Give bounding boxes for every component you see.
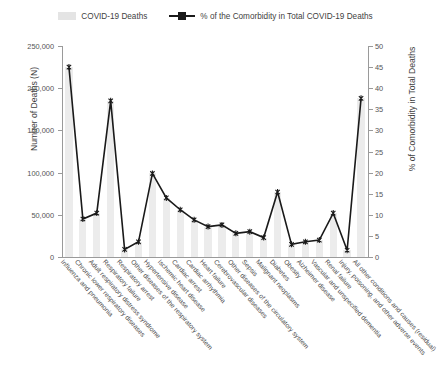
right-tick-label: 20 xyxy=(375,169,415,178)
legend-label-bar: COVID-19 Deaths xyxy=(81,12,147,21)
left-tick-label: 50,000 xyxy=(8,211,54,220)
line-marker xyxy=(108,98,112,104)
left-tick-label: 250,000 xyxy=(8,42,54,51)
right-tick-mark xyxy=(369,194,373,195)
line-marker xyxy=(178,207,182,213)
right-tick-mark xyxy=(369,257,373,258)
x-axis-labels: Influenza and pneumoniaChronic lower res… xyxy=(62,258,368,390)
right-tick-mark xyxy=(369,173,373,174)
right-tick-label: 5 xyxy=(375,232,415,241)
line-marker xyxy=(275,189,279,195)
left-tick-label: 100,000 xyxy=(8,169,54,178)
line-marker xyxy=(150,170,154,176)
right-tick-label: 45 xyxy=(375,63,415,72)
line-marker xyxy=(331,210,335,216)
line-path xyxy=(69,67,361,250)
plot-area xyxy=(62,46,368,257)
legend-label-line: % of the Comorbidity in Total COVID-19 D… xyxy=(200,12,372,21)
line-marker-swatch-icon xyxy=(169,11,195,21)
right-tick-mark xyxy=(369,152,373,153)
legend-item-line: % of the Comorbidity in Total COVID-19 D… xyxy=(169,11,372,21)
right-tick-label: 10 xyxy=(375,211,415,220)
right-tick-label: 40 xyxy=(375,84,415,93)
line-series xyxy=(62,46,368,257)
left-axis-title: Number of Deaths (N) xyxy=(29,34,39,184)
left-tick-label: 200,000 xyxy=(8,84,54,93)
line-marker xyxy=(164,195,168,201)
right-tick-label: 15 xyxy=(375,190,415,199)
line-marker xyxy=(345,247,349,253)
right-tick-mark xyxy=(369,88,373,89)
left-tick-label: 0 xyxy=(8,253,54,262)
right-tick-label: 35 xyxy=(375,105,415,114)
right-tick-mark xyxy=(369,46,373,47)
right-tick-label: 30 xyxy=(375,126,415,135)
bar-swatch-icon xyxy=(58,12,76,20)
right-tick-mark xyxy=(369,67,373,68)
line-marker xyxy=(359,95,363,101)
right-tick-label: 50 xyxy=(375,42,415,51)
right-tick-mark xyxy=(369,130,373,131)
right-tick-label: 0 xyxy=(375,253,415,262)
right-tick-label: 25 xyxy=(375,148,415,157)
line-marker xyxy=(67,64,71,70)
x-axis-label: All other conditions and causes (residua… xyxy=(352,258,438,352)
legend-item-bar: COVID-19 Deaths xyxy=(58,12,147,21)
right-tick-mark xyxy=(369,109,373,110)
left-tick-label: 150,000 xyxy=(8,126,54,135)
right-tick-mark xyxy=(369,215,373,216)
chart-legend: COVID-19 Deaths % of the Comorbidity in … xyxy=(0,8,431,24)
right-tick-mark xyxy=(369,236,373,237)
